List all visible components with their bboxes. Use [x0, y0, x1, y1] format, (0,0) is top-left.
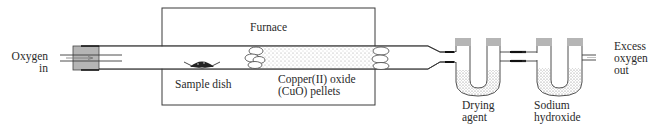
label-sodium-hydroxide: Sodium hydroxide — [534, 99, 581, 123]
u-tube-drying — [445, 38, 514, 96]
u-tube-naoh — [522, 38, 596, 96]
label-excess-oxygen-out: Excess oxygen out — [614, 40, 648, 76]
cuo-pellets-fill — [262, 47, 374, 68]
label-sample-dish: Sample dish — [175, 78, 232, 90]
label-cuo-pellets: Copper(II) oxide (CuO) pellets — [278, 73, 356, 97]
label-oxygen-in: Oxygen in — [6, 50, 48, 74]
label-drying-agent: Drying agent — [462, 99, 495, 123]
label-furnace: Furnace — [250, 21, 287, 33]
